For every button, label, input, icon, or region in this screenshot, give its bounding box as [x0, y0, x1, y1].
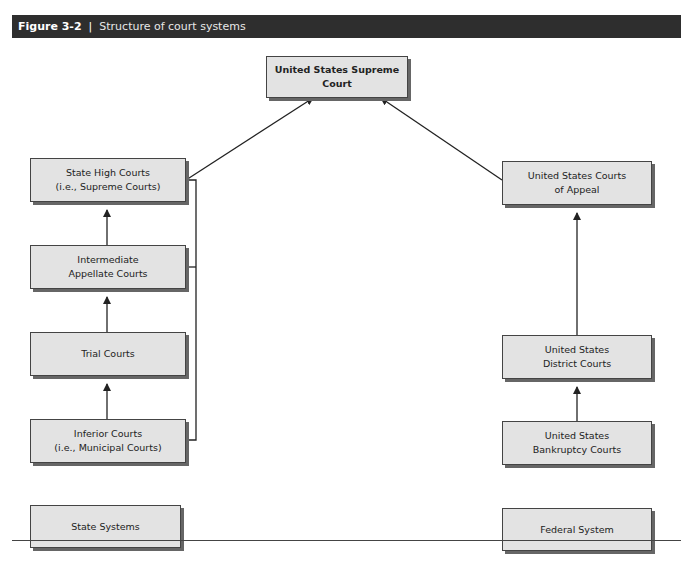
node-us-bankruptcy-courts: United States Bankruptcy Courts	[502, 421, 652, 465]
node-label: United States	[545, 343, 609, 357]
node-state-high-courts: State High Courts (i.e., Supreme Courts)	[30, 158, 186, 202]
node-us-courts-of-appeal: United States Courts of Appeal	[502, 161, 652, 205]
node-label: Intermediate	[77, 253, 138, 267]
node-label: Trial Courts	[81, 347, 134, 361]
node-us-district-courts: United States District Courts	[502, 335, 652, 379]
node-label: District Courts	[543, 357, 611, 371]
node-label: State High Courts	[66, 166, 150, 180]
node-label: (i.e., Supreme Courts)	[56, 180, 161, 194]
node-label: State Systems	[71, 520, 140, 534]
node-label: Inferior Courts	[74, 427, 142, 441]
node-federal-system: Federal System	[502, 508, 652, 551]
node-label: (i.e., Municipal Courts)	[54, 441, 161, 455]
node-state-systems: State Systems	[30, 505, 181, 548]
node-intermediate-appellate-courts: Intermediate Appellate Courts	[30, 245, 186, 289]
node-us-supreme-court: United States Supreme Court	[266, 56, 408, 98]
node-label: of Appeal	[554, 183, 599, 197]
node-label: United States Courts	[528, 169, 626, 183]
node-label: Federal System	[540, 523, 613, 537]
node-label: United States Supreme Court	[267, 63, 407, 91]
node-inferior-courts: Inferior Courts (i.e., Municipal Courts)	[30, 419, 186, 463]
bottom-rule	[12, 540, 681, 541]
node-label: Bankruptcy Courts	[533, 443, 621, 457]
node-trial-courts: Trial Courts	[30, 332, 186, 376]
node-label: United States	[545, 429, 609, 443]
node-label: Appellate Courts	[68, 267, 147, 281]
